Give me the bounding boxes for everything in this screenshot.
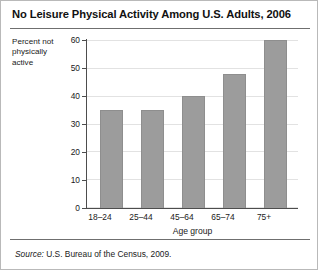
bar-45-64[interactable]: [182, 96, 205, 208]
y-axis-tick-labels: 0 10 20 30 40 50 60: [54, 1, 80, 270]
y-tick-label-30: 30: [58, 119, 80, 129]
chart-figure: No Leisure Physical Activity Among U.S. …: [0, 0, 318, 270]
y-tick-mark-40: [82, 96, 86, 97]
y-tick-label-50: 50: [58, 63, 80, 73]
x-tick-label-75-plus: 75+: [241, 212, 287, 222]
title-block: No Leisure Physical Activity Among U.S. …: [1, 1, 318, 29]
y-tick-label-10: 10: [58, 175, 80, 185]
x-tick-label-45-64: 45–64: [159, 212, 205, 222]
y-tick-label-60: 60: [58, 35, 80, 45]
bar-65-74[interactable]: [223, 74, 246, 208]
y-tick-mark-50: [82, 68, 86, 69]
y-axis-line: [86, 39, 87, 209]
x-tick-label-65-74: 65–74: [200, 212, 246, 222]
x-axis-label: Age group: [87, 226, 298, 236]
source-note: Source: U.S. Bureau of the Census, 2009.: [15, 249, 171, 259]
x-tick-label-25-44: 25–44: [118, 212, 164, 222]
source-value: U.S. Bureau of the Census, 2009.: [44, 249, 172, 259]
y-tick-mark-0: [82, 208, 86, 209]
bar-18-24[interactable]: [100, 110, 123, 208]
source-divider: [10, 239, 310, 240]
x-axis-line: [86, 208, 298, 209]
y-tick-mark-10: [82, 180, 86, 181]
y-tick-label-20: 20: [58, 147, 80, 157]
y-tick-label-40: 40: [58, 91, 80, 101]
y-tick-mark-30: [82, 124, 86, 125]
source-label: Source:: [15, 249, 44, 259]
y-tick-mark-60: [82, 40, 86, 41]
bar-25-44[interactable]: [141, 110, 164, 208]
plot-area: [87, 40, 298, 208]
y-tick-mark-20: [82, 152, 86, 153]
bar-75-plus[interactable]: [264, 40, 287, 208]
x-tick-label-18-24: 18–24: [77, 212, 123, 222]
